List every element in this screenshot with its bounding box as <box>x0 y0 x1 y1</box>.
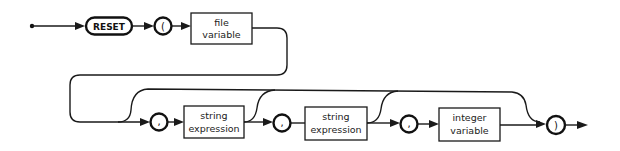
close-paren-node: ) <box>547 116 565 134</box>
reset-syntax-diagram: RESET ( file variable , string expressio… <box>0 0 620 151</box>
open-paren-label: ( <box>161 21 165 32</box>
string-expression-1-node: string expression <box>184 106 244 138</box>
string-expression-2-line2: expression <box>310 124 361 135</box>
bypass-branch-2 <box>244 90 275 122</box>
end-arrow-icon <box>577 121 588 129</box>
file-variable-line2: variable <box>202 29 240 40</box>
arrow-icon <box>390 119 400 127</box>
arrow-icon <box>144 22 154 30</box>
arrow-icon <box>174 118 184 126</box>
arrow-icon <box>263 118 273 126</box>
comma-1-label: , <box>157 116 160 127</box>
string-expression-2-line1: string <box>322 111 349 122</box>
comma-2-node: , <box>274 115 291 132</box>
string-expression-2-node: string expression <box>305 107 367 140</box>
arrow-icon <box>140 118 150 126</box>
arrow-icon <box>536 120 546 128</box>
string-expression-1-line2: expression <box>188 123 239 134</box>
wrap-connector <box>70 28 287 122</box>
string-expression-1-line1: string <box>200 110 227 121</box>
arrow-icon <box>429 120 439 128</box>
integer-variable-node: integer variable <box>439 108 500 141</box>
comma-3-node: , <box>401 116 418 133</box>
comma-1-node: , <box>151 114 168 131</box>
open-paren-node: ( <box>155 18 172 35</box>
integer-variable-line2: variable <box>450 125 488 136</box>
file-variable-node: file variable <box>191 13 252 44</box>
bypass-branch-3 <box>367 91 398 123</box>
comma-3-label: , <box>407 118 410 129</box>
reset-label: RESET <box>93 22 126 32</box>
reset-keyword-node: RESET <box>86 18 132 35</box>
integer-variable-line1: integer <box>452 112 486 123</box>
arrow-icon <box>181 22 191 30</box>
file-variable-line1: file <box>214 17 229 28</box>
arrow-icon <box>75 22 85 30</box>
comma-2-label: , <box>280 117 283 128</box>
close-paren-label: ) <box>554 120 558 131</box>
